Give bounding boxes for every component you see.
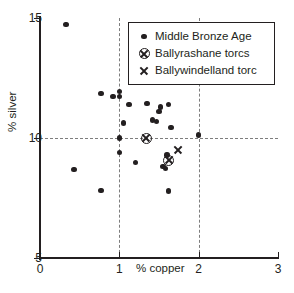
y-tick-label-15: 15 <box>29 12 42 24</box>
data-point <box>163 155 174 166</box>
x-axis-label: % copper <box>136 263 185 275</box>
legend-label: Ballywindelland torc <box>153 65 257 77</box>
scatter-chart-figure: 0123 15105 % copper % silver Middle Bron… <box>0 0 294 293</box>
legend-item-0: Middle Bronze Age <box>135 28 268 45</box>
marker-filled-circle <box>141 34 146 39</box>
data-point <box>98 91 103 96</box>
legend-label: Middle Bronze Age <box>153 31 252 43</box>
x-tick-label-3: 3 <box>275 263 282 275</box>
data-point <box>133 160 138 165</box>
y-axis-label: % silver <box>7 92 19 132</box>
data-point <box>126 102 131 107</box>
y-tick-label-5: 5 <box>35 252 42 264</box>
data-point <box>168 125 173 130</box>
data-point <box>121 120 126 125</box>
legend-item-2: Ballywindelland torc <box>135 62 268 79</box>
legend-marker <box>135 47 153 61</box>
marker-circled-x <box>139 48 150 59</box>
y-tick-label-10: 10 <box>29 132 42 144</box>
legend-marker <box>135 64 153 78</box>
data-point <box>173 145 183 155</box>
gridline-y-10 <box>40 138 278 139</box>
data-point <box>166 188 171 193</box>
chart-legend: Middle Bronze AgeBallyrashane torcsBally… <box>128 22 275 85</box>
legend-label: Ballyrashane torcs <box>153 48 250 60</box>
data-point <box>141 133 152 144</box>
legend-marker <box>135 30 153 44</box>
data-point <box>156 109 161 114</box>
data-point <box>117 135 122 140</box>
marker-x <box>139 66 149 76</box>
data-point <box>98 188 103 193</box>
legend-item-1: Ballyrashane torcs <box>135 45 268 62</box>
data-point <box>117 150 122 155</box>
data-point <box>158 104 163 109</box>
x-axis-line <box>39 257 279 259</box>
x-tick-3 <box>278 252 279 259</box>
x-tick-2 <box>199 252 200 259</box>
x-tick-label-2: 2 <box>195 263 202 275</box>
data-point <box>144 101 149 106</box>
x-tick-1 <box>119 252 120 259</box>
x-tick-label-1: 1 <box>116 263 123 275</box>
